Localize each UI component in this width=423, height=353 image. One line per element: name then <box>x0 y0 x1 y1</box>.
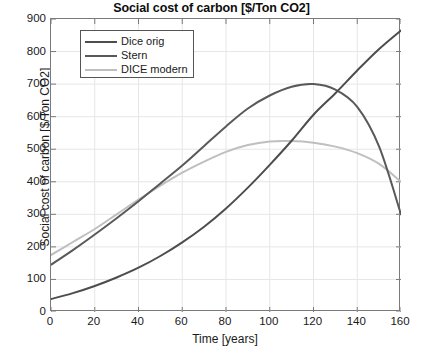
y-tick-label: 100 <box>2 272 46 284</box>
x-tick-label: 20 <box>74 315 114 327</box>
y-tick-label: 900 <box>2 12 46 24</box>
x-tick-label: 140 <box>336 315 376 327</box>
x-tick-label: 100 <box>249 315 289 327</box>
legend-item[interactable]: Dice orig <box>85 35 191 49</box>
x-axis-tick-labels: 020406080100120140160 <box>50 315 400 331</box>
y-tick-label: 700 <box>2 77 46 89</box>
legend-line-icon <box>85 41 117 43</box>
y-tick-label: 400 <box>2 175 46 187</box>
legend-item-label: Stern <box>121 49 147 61</box>
legend-item-label: Dice orig <box>121 35 164 47</box>
y-tick-label: 500 <box>2 142 46 154</box>
x-tick-label: 0 <box>30 315 70 327</box>
legend-item[interactable]: DICE modern <box>85 63 191 77</box>
chart-title: Social cost of carbon [$/Ton CO2] <box>0 1 423 15</box>
legend-line-icon <box>85 69 117 71</box>
legend-item[interactable]: Stern <box>85 49 191 63</box>
chart-legend: Dice origSternDICE modern <box>80 30 194 78</box>
y-axis-tick-labels: 0100200300400500600700800900 <box>0 18 46 311</box>
y-tick-label: 600 <box>2 110 46 122</box>
legend-line-icon <box>85 55 117 57</box>
x-tick-label: 60 <box>161 315 201 327</box>
x-tick-label: 80 <box>205 315 245 327</box>
y-tick-label: 800 <box>2 45 46 57</box>
chart-figure: Social cost of carbon [$/Ton CO2] Social… <box>0 0 423 353</box>
x-tick-label: 120 <box>293 315 333 327</box>
legend-item-label: DICE modern <box>121 63 188 75</box>
y-tick-label: 300 <box>2 207 46 219</box>
x-tick-label: 40 <box>118 315 158 327</box>
x-tick-label: 160 <box>380 315 420 327</box>
y-tick-label: 200 <box>2 240 46 252</box>
x-axis-label: Time [years] <box>50 332 400 346</box>
